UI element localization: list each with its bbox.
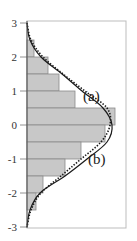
y-tick-label: 0 <box>12 119 18 131</box>
histogram-bar <box>27 57 48 74</box>
histogram-bar <box>27 176 43 193</box>
histogram-chart: 3210-1-2-3 (a) (b) <box>0 0 137 241</box>
y-tick-label: 2 <box>12 51 18 63</box>
y-tick-label: -1 <box>8 153 17 165</box>
histogram-bar <box>27 74 59 91</box>
histogram-bar <box>27 108 115 125</box>
histogram-bar <box>27 125 105 142</box>
y-tick-label: 1 <box>12 85 18 97</box>
histogram-bars <box>27 40 115 210</box>
label-curve-b: (b) <box>88 151 106 168</box>
y-tick-label: -2 <box>8 187 17 199</box>
y-tick-label: -3 <box>8 221 18 233</box>
histogram-bar <box>27 142 81 159</box>
histogram-bar <box>27 91 75 108</box>
y-tick-label: 3 <box>12 17 18 29</box>
y-axis: 3210-1-2-3 <box>8 17 27 233</box>
label-curve-a: (a) <box>83 88 100 105</box>
histogram-bar <box>27 159 65 176</box>
